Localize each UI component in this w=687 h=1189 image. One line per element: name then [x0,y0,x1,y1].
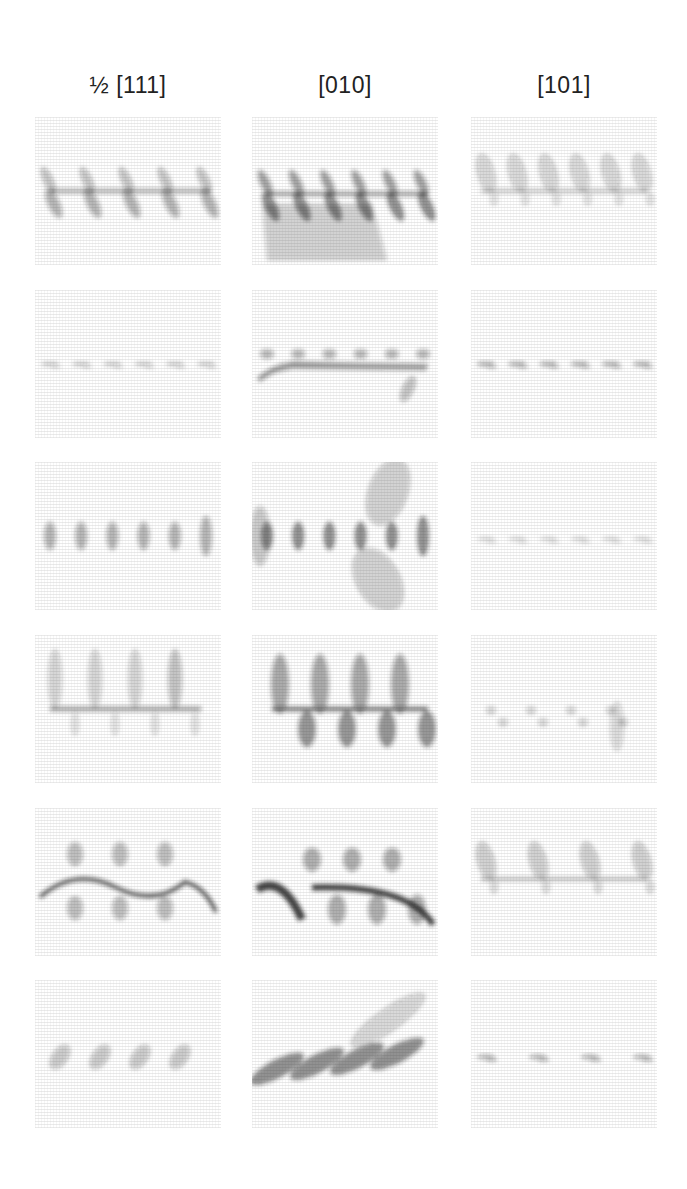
column-label-010: [010] [245,70,445,100]
panel-row3-col3 [471,462,657,610]
panel-row3-col2 [252,462,438,610]
panel-row1-col1 [35,117,221,265]
panel-row5-col2 [252,808,438,956]
panel-row4-col1 [35,635,221,783]
column-label-half-111: ½ [111] [28,70,228,100]
column-label-101: [101] [464,70,664,100]
panel-row6-col1 [35,980,221,1128]
panel-row1-col2 [252,117,438,265]
panel-row2-col1 [35,290,221,438]
panel-row2-col2 [252,290,438,438]
panel-row5-col3 [471,808,657,956]
panel-row2-col3 [471,290,657,438]
panel-row4-col3 [471,635,657,783]
panel-row6-col2 [252,980,438,1128]
panel-row4-col2 [252,635,438,783]
panel-row5-col1 [35,808,221,956]
panel-row3-col1 [35,462,221,610]
panel-row1-col3 [471,117,657,265]
panel-row6-col3 [471,980,657,1128]
